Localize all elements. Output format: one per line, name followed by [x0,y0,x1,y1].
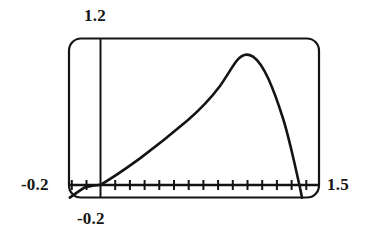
plot-canvas [0,0,367,236]
y-max-label: 1.2 [84,7,106,24]
x-max-label: 1.5 [327,176,349,193]
plot-frame [69,39,319,198]
x-min-label: -0.2 [77,210,105,227]
y-min-label: -0.2 [21,176,49,193]
plotted-curve [70,55,302,198]
graph-figure: 1.2 -0.2 -0.2 1.5 [0,0,367,236]
